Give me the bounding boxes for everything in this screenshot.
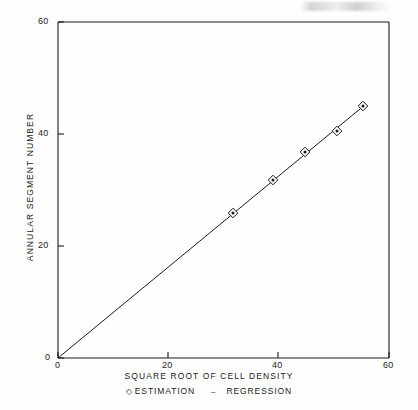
y-axis-ticks xyxy=(58,22,64,358)
legend-label-regression: REGRESSION xyxy=(226,386,292,396)
x-tick-label-20: 20 xyxy=(162,360,172,370)
x-tick-label-0: 0 xyxy=(55,360,60,370)
x-axis-ticks xyxy=(58,352,389,358)
chart-legend: ◇ESTIMATION–REGRESSION xyxy=(0,386,418,396)
x-tick-label-40: 40 xyxy=(272,360,282,370)
legend-item-estimation: ◇ESTIMATION xyxy=(126,386,195,396)
legend-label-estimation: ESTIMATION xyxy=(135,386,195,396)
x-tick-label-60: 60 xyxy=(383,360,393,370)
line-dash-icon: – xyxy=(211,387,216,396)
data-point xyxy=(300,147,310,157)
x-axis-title: SQUARE ROOT OF CELL DENSITY xyxy=(0,371,418,381)
chart-figure: 60 40 20 0 0 20 40 60 SQUARE ROOT OF CEL… xyxy=(0,0,418,410)
plot-canvas xyxy=(0,0,418,410)
legend-item-regression: –REGRESSION xyxy=(211,386,292,396)
y-tick-label-0: 0 xyxy=(45,352,50,362)
diamond-marker-icon: ◇ xyxy=(126,387,133,396)
axis-frame xyxy=(58,22,389,358)
y-tick-label-40: 40 xyxy=(38,128,48,138)
data-point xyxy=(332,126,342,136)
y-tick-label-60: 60 xyxy=(38,16,48,26)
y-tick-label-20: 20 xyxy=(38,240,48,250)
regression-line xyxy=(58,104,366,358)
y-axis-title: ANNULAR SEGMENT NUMBER xyxy=(25,87,35,287)
